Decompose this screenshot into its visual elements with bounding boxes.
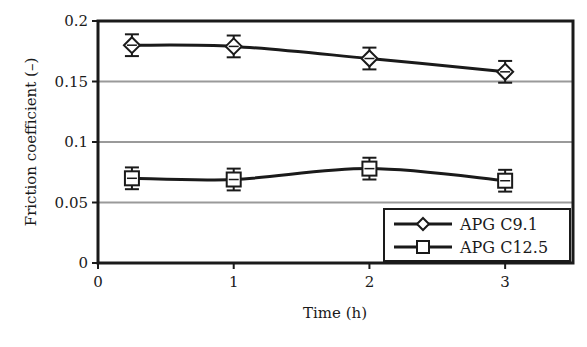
series-layer [124, 34, 513, 191]
x-tick-label: 2 [365, 273, 375, 291]
y-tick-label: 0.1 [64, 133, 88, 151]
legend-marker [417, 241, 429, 253]
series-apg-c9-1 [124, 34, 513, 82]
x-axis-title: Time (h) [303, 304, 367, 322]
x-tick-label: 1 [229, 273, 239, 291]
friction-chart: 00.050.10.150.20123 Time (h) Friction co… [0, 0, 587, 347]
series-line [132, 45, 505, 72]
y-tick-label: 0.05 [55, 194, 88, 212]
y-axis-title: Friction coefficient (–) [22, 58, 40, 227]
x-tick-label: 0 [93, 273, 103, 291]
y-tick-label: 0 [78, 254, 88, 272]
y-tick-label: 0.15 [55, 73, 88, 91]
x-tick-label: 3 [500, 273, 510, 291]
series-line [132, 169, 505, 181]
y-tick-label: 0.2 [64, 12, 88, 30]
legend-label: APG C9.1 [459, 215, 538, 234]
series-apg-c12-5 [125, 158, 512, 192]
legend-label: APG C12.5 [459, 238, 548, 257]
legend: APG C9.1APG C12.5 [384, 209, 570, 261]
